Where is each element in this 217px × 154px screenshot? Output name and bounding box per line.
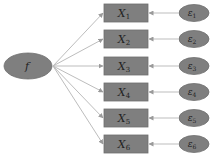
error-subscript: 2 bbox=[193, 38, 197, 45]
error-arrows bbox=[149, 13, 178, 144]
error-node-e2: ε2 bbox=[179, 31, 209, 48]
error-node-e6: ε6 bbox=[179, 136, 209, 153]
arrow-f-x4 bbox=[53, 66, 103, 92]
error-node-e5: ε5 bbox=[179, 110, 209, 127]
indicator-node-x1: X1 bbox=[104, 4, 148, 22]
factor-node-f: f bbox=[4, 53, 52, 79]
error-subscript: 5 bbox=[193, 117, 197, 124]
arrow-f-x2 bbox=[53, 39, 103, 66]
indicator-node-x3: X3 bbox=[104, 57, 148, 75]
error-subscript: 1 bbox=[193, 12, 197, 19]
error-subscript: 3 bbox=[193, 65, 197, 72]
factor-diagram: f X1 X2 X3 X4 X5 X6 ε1 ε2 ε3 ε4 bbox=[0, 0, 217, 154]
indicator-subscript: 1 bbox=[126, 13, 130, 21]
indicator-node-x2: X2 bbox=[104, 30, 148, 48]
error-node-e1: ε1 bbox=[179, 5, 209, 22]
indicator-subscript: 5 bbox=[126, 118, 130, 126]
indicator-node-x4: X4 bbox=[104, 83, 148, 101]
error-subscript: 6 bbox=[193, 143, 197, 150]
indicator-subscript: 4 bbox=[126, 92, 131, 100]
arrow-f-x6 bbox=[53, 66, 103, 144]
indicator-subscript: 2 bbox=[126, 39, 130, 47]
error-node-e3: ε3 bbox=[179, 58, 209, 75]
arrow-f-x1 bbox=[53, 13, 103, 66]
arrow-f-x5 bbox=[53, 66, 103, 118]
indicator-node-x6: X6 bbox=[104, 135, 148, 153]
error-subscript: 4 bbox=[193, 91, 197, 98]
indicator-node-x5: X5 bbox=[104, 109, 148, 127]
factor-loading-arrows bbox=[53, 13, 103, 144]
indicator-subscript: 6 bbox=[126, 144, 131, 152]
indicator-subscript: 3 bbox=[126, 66, 130, 74]
error-node-e4: ε4 bbox=[179, 84, 209, 101]
